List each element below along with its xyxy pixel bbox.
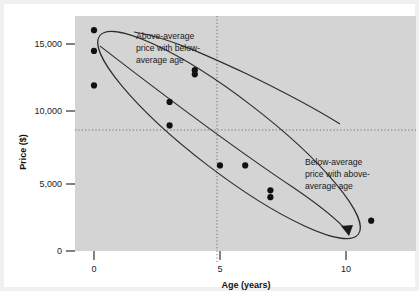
figure-frame: 15,000 10,000 5,000 0 Price ($) 0 5 10 A… (0, 0, 419, 291)
y-axis: 15,000 10,000 5,000 0 Price ($) (18, 16, 75, 256)
x-tick-label-5: 5 (217, 264, 222, 274)
y-tick-label-15000: 15,000 (34, 39, 62, 49)
x-tick-label-0: 0 (91, 264, 96, 274)
data-point (242, 162, 248, 168)
x-axis-title: Age (years) (221, 280, 270, 290)
data-point (167, 99, 173, 105)
data-point (217, 162, 223, 168)
data-point (91, 48, 97, 54)
x-axis: 0 5 10 Age (years) (91, 251, 351, 290)
y-tick-label-5000: 5,000 (39, 179, 62, 189)
data-point (267, 194, 273, 200)
y-tick-label-0: 0 (57, 246, 62, 256)
data-point (91, 27, 97, 33)
data-point (91, 82, 97, 88)
data-point (267, 187, 273, 193)
annotation-below-average-line-3: average age (305, 181, 353, 191)
annotation-below-average-line-2: price with above- (305, 169, 370, 179)
annotation-below-average-line-1: Below-average (305, 157, 363, 167)
y-axis-title: Price ($) (18, 134, 28, 170)
y-tick-label-10000: 10,000 (34, 106, 62, 116)
data-point (368, 218, 374, 224)
x-tick-label-10: 10 (341, 264, 351, 274)
annotation-above-average-line-3: average age (136, 55, 184, 65)
data-point (167, 122, 173, 128)
annotation-above-average-line-1: Above-average (136, 31, 195, 41)
scatter-chart: 15,000 10,000 5,000 0 Price ($) 0 5 10 A… (4, 4, 419, 291)
annotation-above-average-line-2: price with below- (136, 43, 200, 53)
data-point (192, 71, 198, 77)
plot-area-background (75, 16, 416, 251)
